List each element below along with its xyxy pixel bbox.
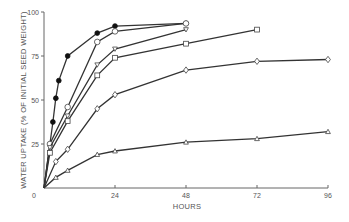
series-diamond bbox=[44, 56, 330, 188]
square-marker bbox=[48, 150, 53, 155]
x-tick-label: 48 bbox=[182, 192, 190, 199]
square-marker bbox=[255, 27, 260, 32]
diamond-marker bbox=[255, 58, 260, 64]
filled-circle-marker bbox=[65, 54, 70, 59]
diamond-marker bbox=[326, 56, 331, 62]
filled-circle-marker bbox=[95, 31, 100, 36]
series-open-circle bbox=[44, 21, 189, 188]
series-line bbox=[44, 30, 257, 188]
diamond-marker bbox=[184, 67, 189, 73]
series-line bbox=[44, 60, 328, 189]
x-tick-label: 96 bbox=[324, 192, 332, 199]
open-circle-marker bbox=[183, 21, 189, 27]
square-marker bbox=[184, 41, 189, 46]
y-tick-label: 50 bbox=[31, 97, 39, 104]
open-circle-marker bbox=[94, 39, 100, 45]
series-group bbox=[44, 21, 330, 188]
water-uptake-chart: 024487296255075100 WATER UPTAKE (% OF IN… bbox=[0, 0, 349, 222]
chart-canvas: 024487296255075100 WATER UPTAKE (% OF IN… bbox=[0, 0, 349, 222]
x-tick-label: 0 bbox=[32, 192, 36, 199]
filled-circle-marker bbox=[56, 78, 61, 83]
x-tick-label: 72 bbox=[253, 192, 261, 199]
open-circle-marker bbox=[112, 29, 118, 35]
x-axis-label: HOURS bbox=[173, 202, 202, 211]
series-square bbox=[44, 27, 259, 188]
filled-circle-marker bbox=[53, 96, 58, 101]
square-marker bbox=[113, 55, 118, 60]
y-tick-label: 25 bbox=[31, 141, 39, 148]
filled-circle-marker bbox=[113, 24, 118, 29]
axes: 024487296255075100 bbox=[27, 9, 332, 200]
filled-circle-marker bbox=[50, 120, 55, 125]
diamond-marker bbox=[113, 92, 118, 98]
square-marker bbox=[95, 73, 100, 78]
y-axis-label: WATER UPTAKE (% OF INITIAL SEED WEIGHT) bbox=[19, 11, 28, 189]
x-tick-label: 24 bbox=[111, 192, 119, 199]
y-tick-label: 100 bbox=[27, 9, 39, 16]
series-up-triangle bbox=[44, 129, 330, 188]
open-circle-marker bbox=[65, 104, 71, 110]
y-tick-label: 75 bbox=[31, 53, 39, 60]
square-marker bbox=[65, 119, 70, 124]
series-filled-circle bbox=[44, 21, 188, 188]
